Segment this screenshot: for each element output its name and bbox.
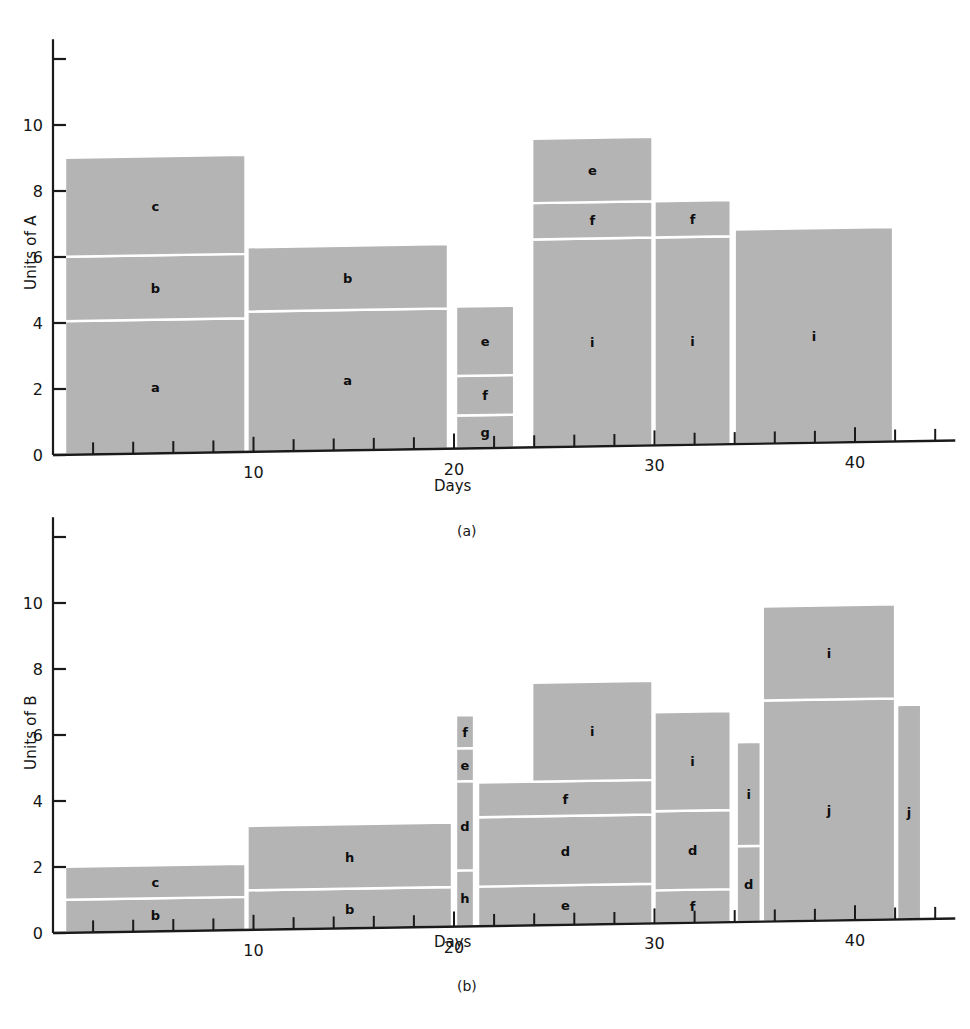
x-axis-tick-label: 10 [243,941,263,960]
bar-segment-label: c [151,199,159,214]
bar-segment-label: f [462,725,468,740]
bar-segment-label: i [812,329,816,344]
bar-segment-label: d [688,843,697,858]
y-axis-tick-label: 0 [33,446,43,465]
bar-segment-label: b [343,271,352,286]
bars-group-b [65,604,921,932]
bar-segment-label: d [460,819,469,834]
x-axis-tick-label: 30 [644,456,664,475]
bar-segment-label: e [588,163,597,178]
bar-segment-label: i [590,335,594,350]
bar-segment-label: e [481,334,490,349]
chart-b-canvas: 024681010203040bcbhhdefedfifdidijij [0,478,970,1029]
y-axis-tick-label: 4 [33,314,43,333]
bar-segment-label: e [561,898,570,913]
x-axis-tick-label: 30 [644,934,664,953]
bar-segment-label: i [590,724,594,739]
bar-segment-label: d [561,844,570,859]
bar-segment-label: h [345,850,354,865]
x-axis-tick-label: 20 [444,460,464,479]
y-axis-tick-label: 10 [23,116,43,135]
y-axis-tick-label: 2 [33,858,43,877]
bar-segment-label: i [690,334,694,349]
bar-segment-label: g [480,425,489,440]
chart-panel-b: 024681010203040bcbhhdefedfifdidijij Unit… [0,478,970,1029]
bar-segment-label: h [460,891,469,906]
bar-segment-label: f [562,792,568,807]
bar-segment-label: f [482,388,488,403]
bar-segment-label: f [690,899,696,914]
y-axis-tick-label: 8 [33,182,43,201]
y-axis-tick-label: 8 [33,660,43,679]
y-axis-title-b: Units of B [22,695,40,770]
bar-segment-label: j [906,805,911,820]
bar-segment-label: j [826,803,831,818]
y-axis-tick-label: 10 [23,594,43,613]
bar-segment-label: b [151,908,160,923]
y-axis-title-a: Units of A [22,215,40,290]
bar-segment-label: a [151,380,160,395]
bar-segment-label: f [589,213,595,228]
bar-segment-label: i [827,646,831,661]
bar-segment-label: d [744,877,753,892]
bar-segment-label: f [690,212,696,227]
x-axis-tick-label: 40 [845,931,865,950]
figure-root: 024681010203040abcabgfeifeifi Units of A… [0,0,970,1029]
panel-caption-b: (b) [457,978,477,994]
bar-segment-label: c [151,875,159,890]
bar-segment-label: b [345,902,354,917]
y-axis-tick-label: 0 [33,924,43,943]
y-axis-tick-label: 2 [33,380,43,399]
chart-a-canvas: 024681010203040abcabgfeifeifi [0,0,970,560]
bar-segment-label: i [746,787,750,802]
bars-group-a [65,137,893,455]
x-axis-title-b: Days [434,933,471,951]
bar-segment-label: b [151,281,160,296]
bar-segment-label: i [690,754,694,769]
x-axis-tick-label: 40 [845,453,865,472]
bar-segment-label: a [343,373,352,388]
y-axis-tick-label: 4 [33,792,43,811]
bar-segment-label: e [461,758,470,773]
chart-panel-a: 024681010203040abcabgfeifeifi Units of A… [0,0,970,560]
